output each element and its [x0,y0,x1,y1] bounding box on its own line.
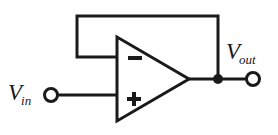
input-terminal-node [45,89,58,102]
output-junction-dot [213,74,223,84]
input-voltage-subscript: in [21,93,31,108]
opamp-circuit-diagram: Vin Vout [0,0,278,135]
output-voltage-label: Vout [226,40,257,63]
opamp-triangle [117,37,189,121]
circuit-schematic-svg [0,0,278,135]
output-terminal-node [247,73,260,86]
output-voltage-subscript: out [239,52,256,67]
input-voltage-symbol: V [8,80,22,105]
input-voltage-label: Vin [8,81,32,104]
output-voltage-symbol: V [226,39,240,64]
